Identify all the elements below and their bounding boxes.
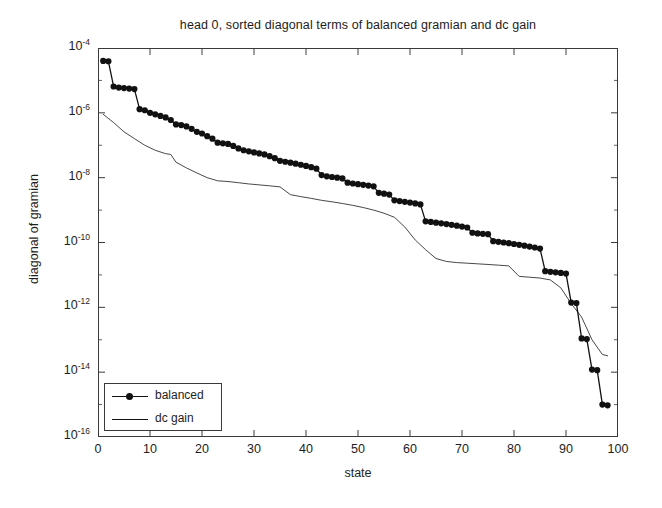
data-point-marker — [506, 240, 512, 246]
legend-label-balanced: balanced — [155, 388, 204, 402]
data-point-marker — [464, 224, 470, 230]
data-point-marker — [397, 198, 403, 204]
data-point-marker — [573, 300, 579, 306]
x-tick-label: 100 — [598, 442, 638, 456]
data-point-marker — [345, 180, 351, 186]
data-point-marker — [516, 242, 522, 248]
data-point-marker — [599, 401, 605, 407]
data-point-marker — [246, 148, 252, 154]
data-point-marker — [495, 239, 501, 245]
data-point-marker — [365, 182, 371, 188]
data-point-marker — [282, 159, 288, 165]
data-point-marker — [178, 122, 184, 128]
x-tick-label: 20 — [182, 442, 222, 456]
data-point-marker — [511, 241, 517, 247]
data-point-marker — [334, 175, 340, 181]
data-point-marker — [329, 174, 335, 180]
x-tick-label: 90 — [546, 442, 586, 456]
data-point-marker — [376, 190, 382, 196]
data-point-marker — [386, 192, 392, 198]
data-point-marker — [298, 162, 304, 168]
data-point-marker — [402, 199, 408, 205]
x-axis-label: state — [98, 466, 618, 480]
data-point-marker — [485, 231, 491, 237]
data-point-marker — [189, 126, 195, 132]
data-point-marker — [449, 222, 455, 228]
y-axis-label: diagonal of gramian — [27, 129, 41, 329]
data-point-marker — [339, 175, 345, 181]
data-point-marker — [381, 191, 387, 197]
data-point-marker — [428, 219, 434, 225]
plot-frame — [99, 49, 618, 437]
data-point-marker — [308, 164, 314, 170]
data-point-marker — [105, 58, 111, 64]
data-point-marker — [303, 163, 309, 169]
data-point-marker — [157, 113, 163, 119]
plot-area — [98, 48, 618, 437]
data-point-marker — [319, 172, 325, 178]
data-point-marker — [417, 201, 423, 207]
data-point-marker — [407, 200, 413, 206]
data-point-marker — [293, 161, 299, 167]
data-point-marker — [469, 230, 475, 236]
x-tick-label: 70 — [442, 442, 482, 456]
data-point-marker — [355, 181, 361, 187]
data-point-marker — [537, 245, 543, 251]
data-point-marker — [209, 136, 215, 142]
data-point-marker — [412, 200, 418, 206]
data-point-marker — [137, 106, 143, 112]
data-point-marker — [287, 160, 293, 166]
data-point-marker — [459, 223, 465, 229]
legend-entry-balanced: balanced — [105, 385, 223, 409]
data-point-marker — [371, 183, 377, 189]
x-tick-label: 60 — [390, 442, 430, 456]
data-point-marker — [168, 117, 174, 123]
legend-swatch-dc-gain — [112, 419, 148, 421]
x-tick-label: 50 — [338, 442, 378, 456]
data-point-marker — [438, 220, 444, 226]
data-point-marker — [131, 86, 137, 92]
data-point-marker — [313, 166, 319, 172]
data-point-marker — [443, 221, 449, 227]
data-point-marker — [277, 158, 283, 164]
x-tick-label: 0 — [78, 442, 118, 456]
data-point-marker — [256, 150, 262, 156]
data-point-marker — [360, 182, 366, 188]
x-tick-label: 10 — [130, 442, 170, 456]
data-point-marker — [111, 83, 117, 89]
data-point-marker — [594, 367, 600, 373]
chart-title: head 0, sorted diagonal terms of balance… — [98, 18, 618, 32]
x-tick-label: 40 — [286, 442, 326, 456]
data-point-marker — [173, 121, 179, 127]
x-tick-label: 80 — [494, 442, 534, 456]
data-point-marker — [605, 402, 611, 408]
data-point-marker — [454, 223, 460, 229]
legend-entry-dc-gain: dc gain — [105, 408, 223, 432]
data-point-marker — [433, 220, 439, 226]
data-point-marker — [527, 243, 533, 249]
legend-label-dc-gain: dc gain — [155, 411, 194, 425]
data-point-marker — [324, 173, 330, 179]
legend-swatch-balanced — [112, 396, 148, 398]
data-point-marker — [241, 147, 247, 153]
data-point-marker — [563, 270, 569, 276]
data-point-marker — [521, 243, 527, 249]
figure-canvas: head 0, sorted diagonal terms of balance… — [0, 0, 662, 508]
data-point-marker — [251, 149, 257, 155]
legend: balanced dc gain — [104, 383, 222, 431]
data-point-marker — [532, 244, 538, 250]
plot-svg — [98, 48, 618, 437]
data-point-marker — [391, 197, 397, 203]
data-point-marker — [147, 110, 153, 116]
x-tick-label: 30 — [234, 442, 274, 456]
data-point-marker — [584, 336, 590, 342]
data-point-marker — [501, 239, 507, 245]
